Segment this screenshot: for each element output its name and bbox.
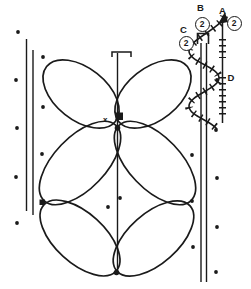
diagram-drawing <box>0 0 251 289</box>
hub-node-dot <box>115 125 121 131</box>
scatter-dot <box>41 105 45 109</box>
stem-bottom-node-dot <box>114 270 120 276</box>
scatter-dot <box>215 176 219 180</box>
scatter-dot <box>15 126 19 130</box>
badge-circled-2-b: 2 <box>195 17 210 32</box>
badge-circled-2-c: 2 <box>179 36 194 51</box>
scatter-dot <box>15 221 19 225</box>
scatter-dot <box>190 199 194 203</box>
scatter-dot <box>14 175 18 179</box>
scatter-dot <box>41 55 45 59</box>
stem-top-bracket <box>112 52 131 57</box>
scatter-dot <box>215 225 219 229</box>
scatter-dot <box>106 205 110 209</box>
scatter-dot <box>190 153 194 157</box>
label-a: A <box>219 6 226 16</box>
scatter-dot <box>214 270 218 274</box>
scatter-dot <box>215 78 219 82</box>
right-pole <box>198 34 209 283</box>
diagram-canvas: B A C D x 2 2 2 <box>0 0 251 289</box>
label-b: B <box>197 3 204 13</box>
x-marker-label: x <box>103 116 107 124</box>
scatter-dot <box>118 196 122 200</box>
standing-wave-group <box>189 12 228 129</box>
scatter-dot <box>191 245 195 249</box>
flower <box>25 46 210 289</box>
scatter-dot <box>16 30 20 34</box>
badge-circled-2-a: 2 <box>227 16 242 31</box>
left-pole <box>27 39 34 215</box>
scatter-dot <box>214 128 218 132</box>
petal-tip-square-marker <box>40 200 46 206</box>
hub-square-marker <box>116 113 124 121</box>
scatter-dot <box>40 152 44 156</box>
label-c: C <box>180 25 187 35</box>
label-d: D <box>228 73 235 83</box>
scatter-dot <box>14 78 18 82</box>
